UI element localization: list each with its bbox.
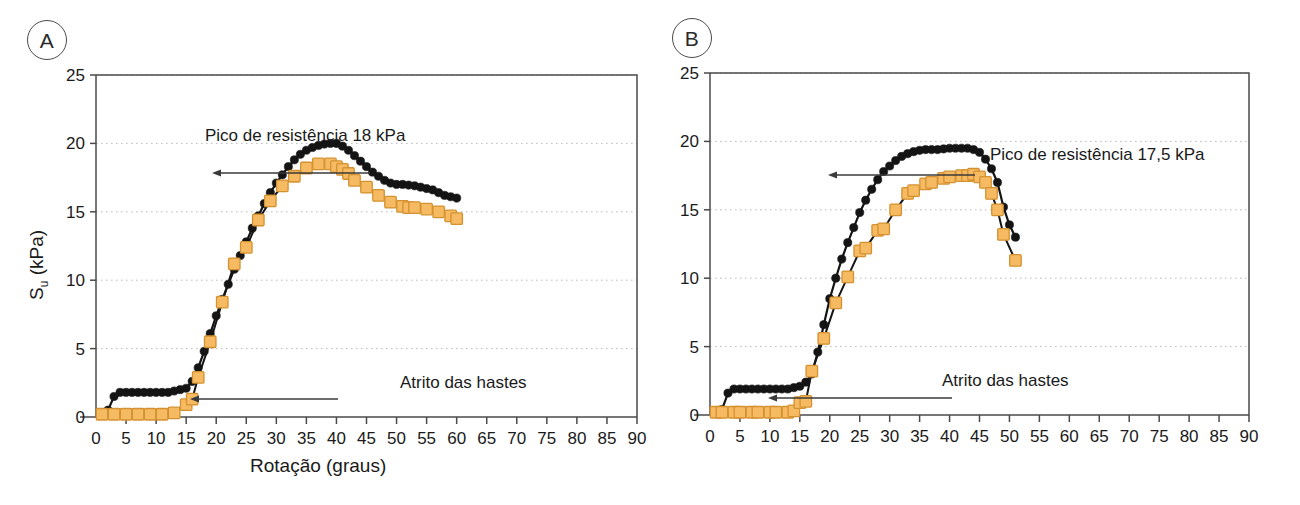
x-tick-label: 5 (735, 427, 744, 446)
figure-root: A 05101520250510152025303540455055606570… (0, 0, 1300, 505)
data-point-circle (212, 312, 220, 320)
x-tick-label: 55 (1030, 427, 1049, 446)
data-point-circle (981, 155, 989, 163)
x-tick-label: 45 (970, 427, 989, 446)
data-point-circle (814, 348, 822, 356)
x-tick-label: 85 (597, 429, 616, 448)
data-point-circle (844, 239, 852, 247)
rod-friction-annotation-label: Atrito das hastes (942, 371, 1069, 390)
x-tick-label: 45 (357, 429, 376, 448)
panel-b-plot: 0510152025051015202530354045505560657075… (650, 0, 1300, 505)
panel-b: B 05101520250510152025303540455055606570… (650, 0, 1300, 505)
x-tick-label: 0 (705, 427, 714, 446)
x-tick-label: 50 (1000, 427, 1019, 446)
data-point-circle (838, 255, 846, 263)
x-tick-label: 60 (447, 429, 466, 448)
data-point-square (890, 204, 902, 216)
data-point-square (301, 162, 313, 174)
x-tick-label: 70 (1120, 427, 1139, 446)
x-tick-label: 20 (207, 429, 226, 448)
x-tick-label: 40 (940, 427, 959, 446)
x-tick-label: 85 (1210, 427, 1229, 446)
rod-friction-annotation-label: Atrito das hastes (400, 373, 527, 392)
data-point-square (926, 177, 938, 189)
data-point-square (253, 214, 264, 226)
data-point-circle (993, 178, 1001, 186)
data-point-square (734, 407, 746, 419)
panel-a-y-axis-label: Su (kPa) (26, 230, 51, 300)
data-point-circle (1011, 233, 1019, 241)
data-point-square (998, 229, 1010, 241)
data-point-square (349, 175, 361, 187)
y-tick-label: 0 (76, 408, 85, 427)
x-tick-label: 65 (477, 429, 496, 448)
data-point-square (980, 177, 992, 189)
y-tick-label: 20 (680, 132, 699, 151)
data-point-square (192, 372, 204, 384)
x-tick-label: 60 (1060, 427, 1079, 446)
data-point-square (361, 181, 373, 193)
data-point-square (944, 171, 956, 183)
annotation-arrowhead (768, 394, 777, 401)
panel-a-x-axis-label: Rotação (graus) (250, 455, 386, 477)
data-point-circle (194, 364, 202, 372)
plot-frame (710, 73, 1249, 415)
data-point-square (120, 409, 132, 421)
y-tick-label: 25 (680, 64, 699, 83)
data-point-circle (284, 163, 292, 171)
data-point-square (313, 158, 325, 170)
data-point-square (409, 202, 421, 214)
x-tick-label: 65 (1090, 427, 1109, 446)
x-tick-label: 80 (1180, 427, 1199, 446)
x-tick-label: 90 (1240, 427, 1259, 446)
data-point-circle (987, 165, 995, 173)
data-point-circle (856, 208, 864, 216)
x-tick-label: 30 (267, 429, 286, 448)
x-tick-label: 20 (820, 427, 839, 446)
data-point-square (716, 407, 728, 419)
y-tick-label: 0 (690, 406, 699, 425)
x-tick-label: 10 (760, 427, 779, 446)
x-tick-label: 25 (850, 427, 869, 446)
y-tick-label: 20 (66, 134, 85, 153)
x-tick-label: 55 (417, 429, 436, 448)
y-tick-label: 10 (680, 269, 699, 288)
data-point-square (860, 242, 872, 254)
data-point-square (132, 409, 144, 421)
x-tick-label: 35 (297, 429, 316, 448)
data-point-square (385, 196, 397, 208)
data-point-circle (868, 185, 876, 193)
data-point-circle (278, 171, 286, 179)
data-point-circle (1005, 221, 1013, 229)
data-point-circle (862, 196, 870, 204)
data-point-square (156, 409, 168, 421)
data-point-square (144, 409, 156, 421)
y-tick-label: 15 (66, 203, 85, 222)
x-tick-label: 90 (628, 429, 647, 448)
x-tick-label: 25 (237, 429, 256, 448)
data-point-square (1010, 255, 1022, 266)
peak-annotation-label: Pico de resistência 18 kPa (205, 126, 406, 145)
x-tick-label: 15 (790, 427, 809, 446)
panel-a: A 05101520250510152025303540455055606570… (0, 0, 650, 505)
x-tick-label: 30 (880, 427, 899, 446)
x-tick-label: 0 (91, 429, 100, 448)
data-point-circle (874, 176, 882, 184)
data-point-square (433, 206, 445, 218)
y-tick-label: 5 (690, 338, 699, 357)
data-point-square (752, 407, 764, 419)
data-point-circle (850, 223, 858, 231)
data-point-square (108, 409, 120, 421)
x-tick-label: 70 (507, 429, 526, 448)
data-point-square (830, 297, 842, 309)
data-point-circle (224, 280, 232, 288)
y-tick-label: 10 (66, 271, 85, 290)
x-tick-label: 75 (1150, 427, 1169, 446)
data-point-circle (832, 274, 840, 282)
y-tick-label: 5 (76, 340, 85, 359)
data-point-circle (453, 194, 461, 202)
data-point-square (241, 242, 253, 254)
data-point-square (806, 365, 818, 377)
x-tick-label: 40 (327, 429, 346, 448)
data-point-circle (182, 384, 190, 392)
